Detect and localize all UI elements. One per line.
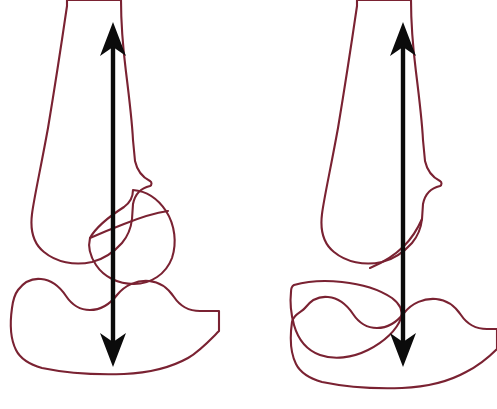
knee-alignment-figure	[0, 0, 497, 409]
right-patella-bone-displaced	[291, 281, 402, 358]
left-femur-bone	[32, 0, 152, 264]
left-mechanical-axis-arrow	[100, 22, 126, 367]
right-femoral-condyle-edge	[370, 219, 422, 268]
left-panel	[11, 0, 219, 374]
figure-canvas	[0, 0, 497, 409]
right-panel	[291, 0, 497, 388]
right-mechanical-axis-arrow	[390, 22, 416, 367]
right-femur-bone	[322, 0, 442, 264]
